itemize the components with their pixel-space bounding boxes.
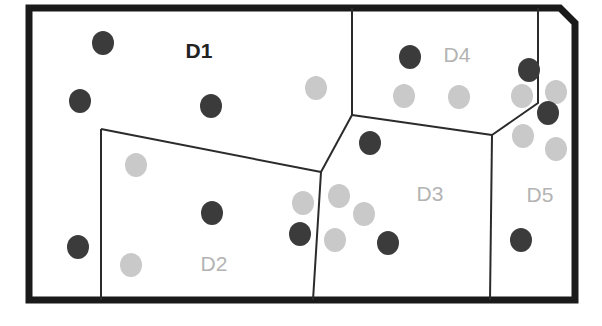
diagram-canvas: D1D2D3D4D5 (0, 0, 602, 326)
point-d3-light-1 (328, 184, 350, 208)
point-d5-dark-2 (510, 228, 532, 252)
region-partition-diagram: D1D2D3D4D5 (0, 0, 602, 326)
outer-boundary (29, 8, 575, 300)
point-d3-light-2 (353, 202, 375, 226)
point-d4-dark-2 (518, 58, 540, 82)
point-d1-dark-1 (92, 31, 114, 55)
point-d5-dark-1 (537, 101, 559, 125)
region-label-d2: D2 (200, 252, 227, 275)
region-label-d4: D4 (443, 43, 470, 66)
point-d4-light-2 (448, 85, 470, 109)
point-d1-dark-3 (200, 94, 222, 118)
point-d1-dark-4 (67, 235, 89, 259)
region-label-d5: D5 (526, 183, 553, 206)
point-d4-light-1 (393, 84, 415, 108)
point-d3-dark-1 (359, 131, 381, 155)
region-label-d1: D1 (185, 39, 212, 62)
point-d2-light-2 (120, 253, 142, 277)
point-d2-light-3 (292, 191, 314, 215)
point-d5-light-1 (545, 80, 567, 104)
point-d1-light-1 (305, 76, 327, 100)
point-d2-dark-2 (289, 222, 311, 246)
outer-border-group (29, 8, 575, 300)
point-d5-light-2 (512, 124, 534, 148)
point-d4-dark-1 (399, 45, 421, 69)
point-d4-light-3 (511, 84, 533, 108)
point-d2-light-1 (125, 153, 147, 177)
point-d1-dark-2 (69, 89, 91, 113)
point-d3-light-3 (324, 228, 346, 252)
point-d2-dark-1 (201, 201, 223, 225)
point-d3-dark-2 (377, 231, 399, 255)
region-label-d3: D3 (416, 182, 443, 205)
point-d5-light-3 (545, 137, 567, 161)
